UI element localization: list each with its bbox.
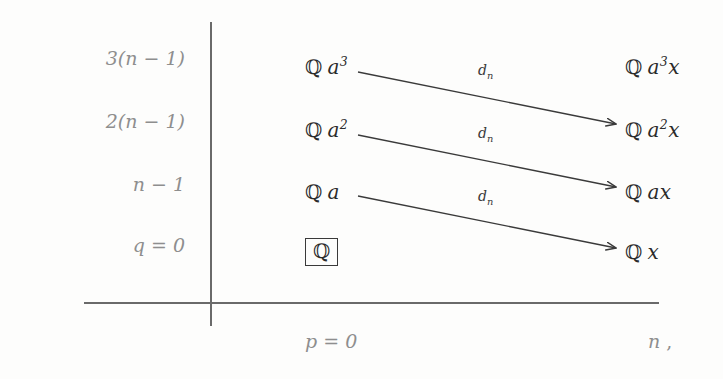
entry-q-a: ℚ a: [305, 180, 340, 204]
rational-numbers-symbol: ℚ: [625, 118, 643, 142]
p-axis-label-n: n ,: [648, 330, 672, 352]
differential-label-3: dn: [478, 188, 493, 207]
q-axis-label-n-1: n − 1: [10, 173, 185, 195]
horizontal-axis: [84, 302, 659, 304]
q-axis-label-q-0: q = 0: [10, 234, 185, 256]
differential-label-2: dn: [478, 125, 493, 144]
entry-q-a2x: ℚ a2x: [625, 117, 680, 142]
rational-numbers-symbol: ℚ: [313, 241, 330, 262]
q-axis-label-3n-1: 3(n − 1): [10, 47, 185, 69]
entry-q-boxed: ℚ: [305, 238, 338, 266]
differential-label-1: dn: [478, 62, 493, 81]
rational-numbers-symbol: ℚ: [305, 118, 323, 142]
entry-q-a3x: ℚ a3x: [625, 54, 680, 79]
vertical-axis: [210, 22, 212, 326]
rational-numbers-symbol: ℚ: [625, 240, 643, 264]
rational-numbers-symbol: ℚ: [625, 180, 643, 204]
rational-numbers-symbol: ℚ: [625, 55, 643, 79]
entry-q-x: ℚ x: [625, 240, 659, 264]
rational-numbers-symbol: ℚ: [305, 55, 323, 79]
entry-q-a2: ℚ a2: [305, 117, 348, 142]
entry-q-ax: ℚ ax: [625, 180, 672, 204]
entry-q-a3: ℚ a3: [305, 54, 348, 79]
spectral-sequence-diagram: 3(n − 1) 2(n − 1) n − 1 q = 0 p = 0 n , …: [0, 0, 723, 379]
q-axis-label-2n-1: 2(n − 1): [10, 110, 185, 132]
p-axis-label-p-0: p = 0: [305, 330, 357, 352]
rational-numbers-symbol: ℚ: [305, 180, 323, 204]
